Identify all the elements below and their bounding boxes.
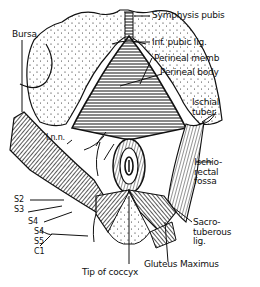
label-perineal-membrane: Perineal memb bbox=[154, 54, 219, 63]
perineum-diagram: Symphysis pubis Inf. pubic lig. Perineal… bbox=[0, 0, 260, 287]
label-s4: S4 bbox=[34, 228, 44, 236]
label-inferior-rectal-nerve: I.n.n. bbox=[46, 134, 65, 142]
inferior-rectal-nerve bbox=[84, 132, 114, 176]
label-c1: C1 bbox=[34, 248, 44, 256]
label-tip-of-coccyx: Tip of coccyx bbox=[82, 268, 138, 277]
label-perineal-body: Perineal body bbox=[160, 68, 219, 77]
label-sacrotuberous-ligament: Sacro- tuberous lig. bbox=[193, 218, 231, 247]
label-gluteus-maximus: Gluteus Maximus bbox=[144, 260, 219, 269]
label-ischiorectal-fossa: Ischio- rectal fossa bbox=[194, 158, 222, 187]
label-s5: S5 bbox=[34, 238, 44, 246]
label-bursa: Bursa bbox=[12, 30, 37, 39]
label-s4-upper: S4 bbox=[28, 218, 38, 226]
label-inf-pubic-lig: Inf. pubic lig. bbox=[152, 38, 207, 47]
label-ischial-tuber: Ischial tuber. bbox=[192, 98, 219, 117]
label-symphysis-pubis: Symphysis pubis bbox=[152, 11, 225, 20]
label-s3: S3 bbox=[14, 206, 24, 214]
label-s2: S2 bbox=[14, 196, 24, 204]
